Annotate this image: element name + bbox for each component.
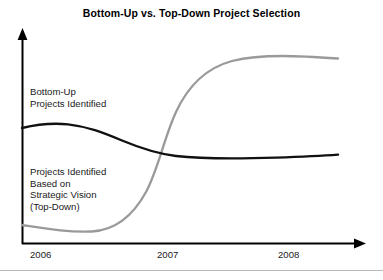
- y-axis-arrow-icon: [18, 28, 28, 40]
- footer-divider: [0, 270, 383, 271]
- x-tick-label-2008: 2008: [278, 249, 299, 260]
- chart-figure: Bottom-Up vs. Top-Down Project Selection…: [0, 0, 383, 280]
- x-tick-label-2007: 2007: [157, 249, 178, 260]
- x-tick-label-2006: 2006: [30, 249, 51, 260]
- plot-area: [0, 0, 383, 280]
- series-line-bottom-up: [22, 124, 338, 159]
- series-label-bottom-up: Bottom-Up Projects Identified: [30, 86, 106, 109]
- series-label-top-down: Projects Identified Based on Strategic V…: [30, 166, 106, 212]
- x-axis-arrow-icon: [354, 238, 366, 248]
